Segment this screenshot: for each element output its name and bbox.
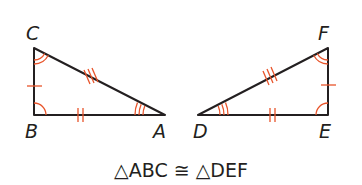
angle-c-arc-1 — [34, 54, 45, 61]
angle-d-arc-1 — [226, 103, 229, 116]
angle-a-arc-1 — [135, 103, 138, 116]
triangle-def: F D E — [193, 22, 336, 142]
vertex-label-f: F — [318, 22, 330, 44]
vertex-label-a: A — [151, 120, 166, 142]
vertex-label-c: C — [26, 22, 40, 44]
angle-a-arc-2 — [139, 104, 141, 115]
angle-d-arc-2 — [222, 104, 224, 115]
angle-b-arc — [34, 103, 46, 115]
triangle-abc: C B A — [25, 22, 166, 142]
congruent-triangles-diagram: C B A F D E △ABC ≅ △DEF — [0, 0, 362, 185]
angle-e-arc — [316, 103, 328, 115]
vertex-label-b: B — [25, 120, 38, 142]
angle-f-arc-1 — [317, 54, 328, 61]
vertex-label-e: E — [319, 120, 331, 142]
vertex-label-d: D — [193, 120, 208, 142]
congruence-caption: △ABC ≅ △DEF — [114, 159, 248, 181]
angle-d-arc-3 — [218, 106, 220, 115]
triangle-abc-edges — [34, 48, 165, 115]
angle-a-arc-3 — [143, 106, 145, 115]
triangle-def-edges — [198, 48, 328, 115]
